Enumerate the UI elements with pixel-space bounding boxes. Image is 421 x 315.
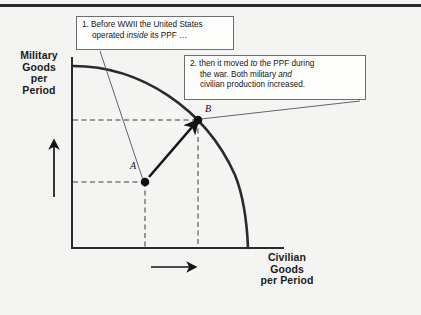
y-axis-title-line-3: per — [8, 73, 70, 85]
data-point-b — [194, 116, 203, 125]
callout-1-line-1: 1. Before WWII the United States — [82, 20, 228, 31]
leader-line-callout-2 — [201, 101, 360, 119]
point-label-a: A — [130, 160, 136, 171]
callout-box-1: 1. Before WWII the United States operate… — [76, 16, 234, 50]
data-point-a — [141, 178, 150, 187]
x-axis-title: Civilian Goods per Period — [228, 252, 346, 287]
callout-box-2: 2. then it moved to the PPF during the w… — [184, 55, 366, 100]
callout-2-line-2-pre: the war. Both military — [200, 70, 278, 79]
movement-arrow-a-to-b — [149, 126, 193, 177]
callout-1-line-2-pre: operated — [92, 31, 127, 40]
y-axis-title: Military Goods per Period — [8, 50, 70, 96]
point-label-b: B — [205, 103, 211, 114]
callout-2-line-2-emphasis: and — [278, 70, 292, 79]
callout-2-line-1-post: the PPF during — [257, 59, 314, 68]
y-axis-title-line-4: Period — [8, 85, 70, 97]
callout-2-line-2: the war. Both military and — [190, 70, 360, 81]
callout-2-line-1: 2. then it moved to the PPF during — [190, 59, 360, 70]
leader-line-callout-1 — [100, 51, 143, 180]
callout-2-line-3: civilian production increased. — [190, 80, 360, 91]
callout-1-line-2: operated inside its PPF … — [82, 31, 228, 42]
callout-1-line-2-emphasis: inside — [127, 31, 148, 40]
x-axis-title-line-1: Civilian — [228, 252, 346, 264]
y-axis-title-line-1: Military — [8, 50, 70, 62]
callout-1-line-2-post: its PPF … — [148, 31, 187, 40]
callout-2-line-1-pre: 2. then it moved — [190, 59, 251, 68]
x-axis-title-line-3: per Period — [228, 275, 346, 287]
ppf-figure: Military Goods per Period Civilian Goods… — [0, 0, 421, 315]
